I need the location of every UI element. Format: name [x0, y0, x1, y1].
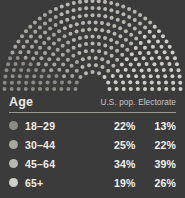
arc-dot [152, 34, 156, 38]
arc-dot [81, 57, 85, 61]
arc-dot [97, 35, 101, 39]
arc-dot [121, 81, 125, 85]
arc-dot [103, 75, 107, 79]
arc-dot [25, 74, 29, 78]
arc-dot [135, 81, 139, 85]
arc-dot [66, 3, 70, 7]
arc-dot [63, 26, 67, 30]
arc-dot [106, 69, 110, 73]
arc-dot [155, 68, 159, 72]
arc-dot [3, 81, 7, 85]
arc-dot [22, 45, 26, 49]
arc-dot [148, 30, 152, 34]
arc-dot [31, 56, 35, 60]
arc-dot [97, 42, 101, 46]
arc-dot [168, 45, 172, 49]
header-cell-electorate: Electorate [136, 98, 177, 107]
arc-dot [60, 12, 64, 16]
arc-dot [10, 50, 14, 54]
arc-dot [165, 56, 169, 60]
arc-dot [162, 68, 166, 72]
arc-dot [138, 51, 142, 55]
arc-dot [38, 87, 42, 91]
arc-dot [31, 81, 35, 85]
arc-dot [133, 27, 137, 31]
arc-dot [100, 21, 104, 25]
arc-dot [115, 58, 119, 62]
arc-dot [18, 74, 22, 78]
arc-dot [48, 27, 52, 31]
arc-dot [75, 60, 79, 64]
arc-dot [69, 24, 73, 28]
arc-dot [108, 87, 112, 91]
arc-dot [103, 14, 107, 18]
arc-dot [122, 20, 126, 24]
arc-dot [114, 80, 118, 84]
arc-dot [124, 68, 128, 72]
arc-dot [94, 63, 98, 67]
arc-dot [103, 0, 107, 4]
arc-dot [12, 68, 16, 72]
arc-dot [141, 74, 145, 78]
arc-dot [137, 63, 141, 67]
arc-dot [84, 0, 88, 3]
arc-dot [118, 34, 122, 38]
arc-dot [54, 15, 58, 19]
age-group-label: 30–44 [25, 139, 55, 151]
arc-dot [120, 44, 124, 48]
arc-dot [160, 62, 164, 66]
arc-dot [156, 39, 160, 43]
arc-dot [132, 68, 136, 72]
arc-dot [53, 80, 57, 84]
arc-dot [25, 39, 29, 43]
cell-electorate: 26% [136, 177, 177, 189]
arc-dot [127, 23, 131, 27]
arc-dot [150, 87, 154, 91]
arc-dot [13, 45, 17, 49]
arc-dot [124, 38, 128, 42]
arc-dot [113, 32, 117, 36]
arc-dot [24, 87, 28, 91]
arc-dot [47, 46, 51, 50]
arc-dot [143, 46, 147, 50]
arc-dot [129, 33, 133, 37]
arc-dot [157, 87, 161, 91]
arc-dot [150, 81, 154, 85]
arc-dot [139, 41, 143, 45]
arc-dot [16, 56, 20, 60]
arc-dot [106, 22, 110, 26]
arc-dot [6, 62, 10, 66]
arc-dot [140, 68, 144, 72]
arc-dot [110, 54, 114, 58]
legend-dot-icon [9, 121, 18, 130]
arc-dot [59, 20, 63, 24]
cell-us-pop: 25% [95, 139, 136, 151]
arc-dot [91, 35, 95, 39]
arc-dot [74, 87, 78, 91]
cell-electorate: 22% [136, 139, 177, 151]
arc-dot [70, 74, 74, 78]
age-group-label: 18–29 [25, 120, 55, 132]
arc-dot [61, 62, 65, 66]
arc-dot [134, 74, 138, 78]
arc-dot [87, 56, 91, 60]
cell-us-pop: 19% [95, 177, 136, 189]
arc-dot [169, 68, 173, 72]
header-cell-age: Age [9, 95, 95, 109]
arc-dot [67, 80, 71, 84]
arc-dot [45, 87, 49, 91]
arc-dot [116, 18, 120, 22]
arc-dot [111, 74, 115, 78]
arc-dot [61, 53, 65, 57]
arc-dot [109, 38, 113, 42]
arc-dot [143, 25, 147, 29]
arc-dot [38, 35, 42, 39]
arc-dot [3, 74, 7, 78]
arc-dot [173, 56, 177, 60]
arc-dot [33, 20, 37, 24]
arc-dot [65, 18, 69, 22]
cell-us-pop: 34% [95, 158, 136, 170]
arc-dot [171, 87, 175, 91]
arc-dot [16, 39, 20, 43]
arc-dot [72, 46, 76, 50]
